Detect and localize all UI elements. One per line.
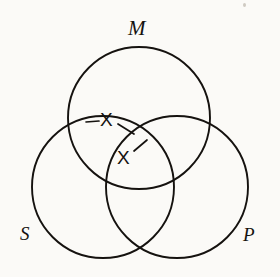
venn-circles-svg [0,0,280,277]
paper-speck [243,3,246,7]
x-lower-right-connector [134,140,147,151]
circle-p [106,116,248,258]
venn-diagram-figure: M S P X X [0,0,280,277]
x-upper-right-connector [118,124,134,134]
circle-label-m: M [128,18,146,39]
x-upper-left-connector [86,121,99,122]
x-mark-lower: X [117,148,130,167]
x-mark-upper: X [100,110,113,129]
circle-label-s: S [20,224,30,243]
circle-label-p: P [243,225,255,244]
